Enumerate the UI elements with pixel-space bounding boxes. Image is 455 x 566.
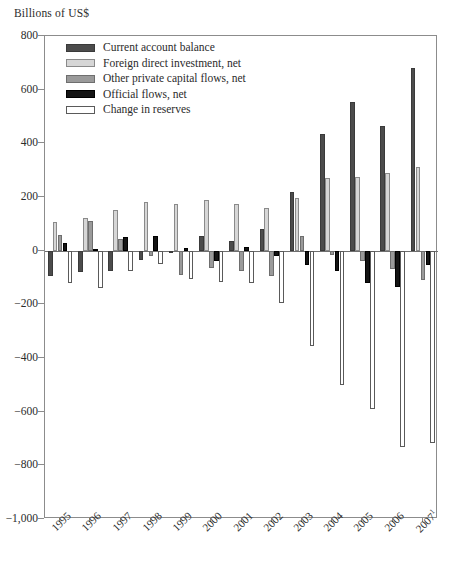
- bar: [179, 251, 184, 275]
- bar: [174, 204, 179, 251]
- bar: [365, 251, 370, 283]
- swatch-change-in-reserves-icon: [66, 106, 95, 114]
- bar: [199, 236, 204, 251]
- bar: [330, 251, 335, 255]
- bar: [169, 251, 174, 254]
- swatch-other-private-capital-flows-icon: [66, 75, 95, 83]
- bar: [68, 251, 73, 283]
- bar: [139, 251, 144, 260]
- bar: [153, 236, 158, 251]
- bar: [234, 204, 239, 251]
- bar: [83, 218, 88, 250]
- bar: [290, 192, 295, 251]
- bar: [385, 173, 390, 251]
- bar: [118, 239, 123, 251]
- bar: [370, 251, 375, 409]
- bar: [274, 251, 279, 256]
- bar: [325, 178, 330, 250]
- legend-row: Official flows, net: [66, 87, 246, 103]
- bar: [189, 251, 194, 279]
- y-tick-mark: [38, 518, 44, 519]
- legend-label: Other private capital flows, net: [103, 73, 246, 85]
- bar: [264, 208, 269, 251]
- swatch-official-flows-icon: [66, 90, 95, 98]
- bar: [88, 221, 93, 251]
- capital-flows-bar-chart: Billions of US$ 8006004002000−200−400−60…: [0, 0, 455, 566]
- bar: [123, 237, 128, 250]
- bar: [411, 68, 416, 250]
- swatch-foreign-direct-investment-icon: [66, 59, 95, 67]
- bar: [249, 251, 254, 283]
- bar: [269, 251, 274, 276]
- legend-row: Other private capital flows, net: [66, 71, 246, 87]
- bar: [93, 249, 98, 251]
- y-axis-labels: 8006004002000−200−400−600−800−1,000: [0, 0, 38, 566]
- bar: [416, 167, 421, 250]
- bar: [219, 251, 224, 282]
- bar: [158, 251, 163, 264]
- bar: [98, 251, 103, 289]
- bar: [113, 210, 118, 250]
- y-tick-label: −200: [14, 297, 38, 309]
- bar: [395, 251, 400, 287]
- bar: [108, 251, 113, 271]
- bar: [400, 251, 405, 447]
- y-tick-label: −600: [14, 405, 38, 417]
- bar: [149, 251, 154, 256]
- bar: [204, 200, 209, 251]
- bar: [335, 251, 340, 271]
- y-tick-label: 600: [21, 83, 38, 95]
- bar: [340, 251, 345, 385]
- legend-label: Official flows, net: [103, 89, 187, 101]
- y-tick-label: 800: [21, 29, 38, 41]
- legend-label: Change in reserves: [103, 104, 191, 116]
- y-tick-label: −1,000: [6, 512, 38, 524]
- bar: [350, 102, 355, 251]
- bar: [58, 235, 63, 251]
- chart-legend: Current account balanceForeign direct in…: [66, 40, 246, 118]
- legend-label: Current account balance: [103, 42, 215, 54]
- bar: [279, 251, 284, 303]
- bar: [53, 222, 58, 250]
- legend-row: Change in reserves: [66, 102, 246, 118]
- bar: [355, 177, 360, 251]
- y-tick-label: −400: [14, 351, 38, 363]
- bar: [128, 251, 133, 271]
- bar: [239, 251, 244, 271]
- bar: [310, 251, 315, 346]
- bar: [300, 236, 305, 251]
- bar: [78, 251, 83, 272]
- y-tick-label: −800: [14, 458, 38, 470]
- legend-label: Foreign direct investment, net: [103, 58, 241, 70]
- bar: [390, 251, 395, 270]
- bar: [426, 251, 431, 266]
- legend-row: Current account balance: [66, 40, 246, 56]
- swatch-current-account-balance-icon: [66, 44, 95, 52]
- legend-row: Foreign direct investment, net: [66, 56, 246, 72]
- bar: [360, 251, 365, 262]
- bar: [430, 251, 435, 443]
- bar: [184, 248, 189, 251]
- bar: [380, 126, 385, 251]
- bar: [48, 251, 53, 276]
- bar: [305, 251, 310, 266]
- bar: [63, 243, 68, 251]
- y-tick-label: 200: [21, 190, 38, 202]
- bar: [244, 247, 249, 251]
- bar: [229, 241, 234, 250]
- bar: [295, 198, 300, 250]
- bar: [260, 229, 265, 250]
- bar: [320, 134, 325, 251]
- y-tick-label: 400: [21, 136, 38, 148]
- bar: [209, 251, 214, 268]
- bar: [144, 202, 149, 250]
- bar: [214, 251, 219, 262]
- bar: [421, 251, 426, 281]
